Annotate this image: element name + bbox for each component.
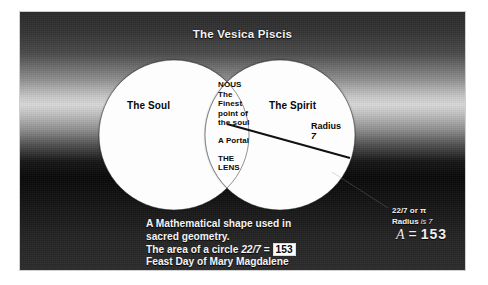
description-line-1: A Mathematical shape used in	[146, 218, 296, 231]
lens-line-nous: NOUS	[218, 80, 282, 90]
math-radius-value: 7	[428, 217, 432, 226]
radius-value: 7	[311, 131, 341, 141]
math-formula-variable: A	[396, 227, 406, 242]
radius-word: Radius	[311, 121, 341, 131]
description-highlight-value: 153	[273, 243, 296, 256]
lens-line-lens: LENS	[218, 163, 282, 173]
gradient-background-panel: The Vesica Piscis The Soul The Spirit Ra…	[20, 12, 465, 270]
math-formula: A=153	[392, 229, 447, 241]
math-block: 22/7 or π Radius is 7 A=153	[392, 206, 447, 241]
label-the-soul: The Soul	[127, 100, 170, 111]
lens-line-finest: Finest	[218, 99, 282, 109]
label-radius: Radius 7	[311, 121, 341, 141]
lens-text-block: NOUS The Finest point of the soul A Port…	[218, 80, 282, 173]
lens-nous-block: NOUS The Finest point of the soul	[218, 80, 282, 128]
lens-portal-block: A Portal	[218, 136, 282, 146]
math-formula-equals: =	[406, 226, 421, 242]
lens-line-the2: THE	[218, 154, 282, 164]
lens-line-the: The	[218, 90, 282, 100]
vesica-piscis-slide: The Vesica Piscis The Soul The Spirit Ra…	[0, 0, 488, 285]
description-line-4: Feast Day of Mary Magdalene	[146, 256, 296, 269]
math-formula-value: 153	[421, 226, 447, 242]
description-block: A Mathematical shape used in sacred geom…	[146, 218, 296, 269]
description-dash: =	[261, 244, 270, 255]
lens-line-aportal: A Portal	[218, 136, 282, 146]
description-line-3-prefix: The area of a circle	[146, 244, 241, 255]
description-fraction: 22/7	[241, 244, 261, 255]
description-line-2: sacred geometry.	[146, 231, 296, 244]
lens-line-pointof: point of	[218, 109, 282, 119]
math-radius-label: Radius	[392, 217, 419, 226]
lens-thelens-block: THE LENS	[218, 154, 282, 173]
math-radius-is: is	[419, 217, 429, 226]
lens-line-thesoul: the soul	[218, 118, 282, 128]
description-line-3: The area of a circle 22/7 = 153	[146, 244, 296, 257]
math-pi-line: 22/7 or π	[392, 206, 447, 217]
